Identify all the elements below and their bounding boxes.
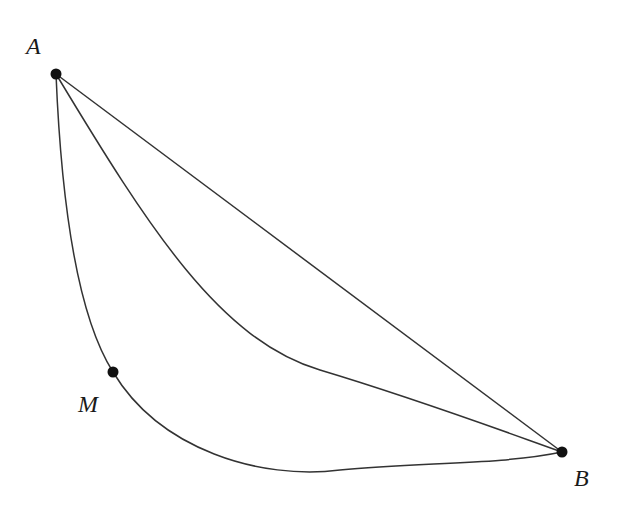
label-A: A bbox=[26, 34, 41, 58]
label-B: B bbox=[574, 466, 589, 490]
label-M: M bbox=[78, 392, 98, 416]
point-A bbox=[51, 69, 62, 80]
straight-line-AB bbox=[56, 74, 562, 452]
point-B bbox=[557, 447, 568, 458]
lower-curve-AMB bbox=[56, 74, 562, 472]
diagram-canvas bbox=[0, 0, 621, 519]
point-M bbox=[108, 367, 119, 378]
